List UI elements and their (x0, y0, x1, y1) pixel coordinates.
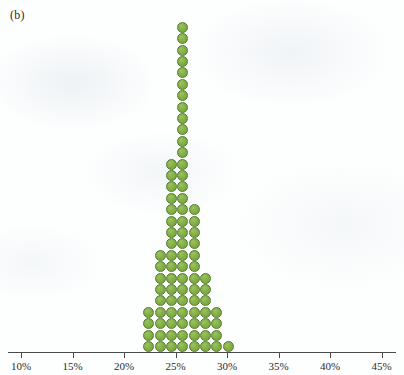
data-dot (166, 216, 177, 227)
data-dot (166, 193, 177, 204)
data-dot (155, 341, 166, 352)
data-dot (177, 284, 188, 295)
x-axis-tick-label: 10% (11, 360, 31, 372)
data-dot (166, 284, 177, 295)
data-dot (166, 238, 177, 249)
x-axis-tick-label: 25% (165, 360, 185, 372)
plot-area (0, 0, 404, 352)
data-dot (177, 341, 188, 352)
data-dot (177, 216, 188, 227)
data-dot (166, 330, 177, 341)
data-dot (177, 22, 188, 33)
x-axis-line (8, 352, 396, 353)
data-dot (166, 341, 177, 352)
x-axis-tick-label: 45% (371, 360, 391, 372)
data-dot (189, 318, 200, 329)
data-dot (166, 307, 177, 318)
data-dot (189, 261, 200, 272)
data-dot (189, 330, 200, 341)
data-dot (155, 330, 166, 341)
data-dot (155, 318, 166, 329)
data-dot (177, 45, 188, 56)
x-axis-tick (227, 352, 228, 358)
data-dot (200, 273, 211, 284)
data-dot (177, 273, 188, 284)
data-dot (177, 261, 188, 272)
data-dot (166, 261, 177, 272)
data-dot (155, 261, 166, 272)
data-dot (189, 250, 200, 261)
data-dot (155, 284, 166, 295)
data-dot (177, 330, 188, 341)
data-dot (177, 170, 188, 181)
data-dot (177, 102, 188, 113)
data-dot (143, 318, 154, 329)
data-dot (177, 113, 188, 124)
data-dot (177, 79, 188, 90)
x-axis-tick (382, 352, 383, 358)
data-dot (143, 330, 154, 341)
data-dot (211, 330, 222, 341)
data-dot (166, 170, 177, 181)
data-dot (177, 124, 188, 135)
data-dot (166, 318, 177, 329)
data-dot (166, 227, 177, 238)
data-dot (177, 181, 188, 192)
x-axis-tick-label: 20% (114, 360, 134, 372)
x-axis-tick (279, 352, 280, 358)
data-dot (200, 341, 211, 352)
data-dot (177, 90, 188, 101)
x-axis-tick-label: 15% (62, 360, 82, 372)
data-dot (189, 273, 200, 284)
data-dot (177, 136, 188, 147)
data-dot (166, 295, 177, 306)
x-axis-tick-label: 35% (268, 360, 288, 372)
data-dot (200, 330, 211, 341)
data-dot (177, 67, 188, 78)
data-dot (200, 295, 211, 306)
data-dot (166, 159, 177, 170)
data-dot (177, 318, 188, 329)
x-axis-tick-label: 30% (217, 360, 237, 372)
data-dot (177, 56, 188, 67)
data-dot (211, 307, 222, 318)
data-dot (177, 250, 188, 261)
data-dot (200, 284, 211, 295)
data-dot (177, 33, 188, 44)
data-dot (177, 193, 188, 204)
data-dot (189, 227, 200, 238)
data-dot (143, 341, 154, 352)
data-dot (166, 273, 177, 284)
x-axis-tick (176, 352, 177, 358)
data-dot (155, 295, 166, 306)
data-dot (177, 204, 188, 215)
data-dot (166, 250, 177, 261)
data-dot (177, 147, 188, 158)
data-dot (177, 227, 188, 238)
x-axis-tick (73, 352, 74, 358)
data-dot (200, 318, 211, 329)
data-dot (189, 307, 200, 318)
data-dot (223, 341, 234, 352)
data-dot (189, 341, 200, 352)
data-dot (177, 295, 188, 306)
x-axis-tick-label: 40% (320, 360, 340, 372)
data-dot (155, 307, 166, 318)
x-axis-tick (330, 352, 331, 358)
data-dot (155, 250, 166, 261)
data-dot (189, 216, 200, 227)
data-dot (211, 318, 222, 329)
data-dot (200, 307, 211, 318)
data-dot (177, 159, 188, 170)
data-dot (177, 238, 188, 249)
data-dot (143, 307, 154, 318)
data-dot (211, 341, 222, 352)
data-dot (166, 181, 177, 192)
dot-plot-figure: (b) 10%15%20%25%30%35%40%45% (0, 0, 404, 375)
data-dot (155, 273, 166, 284)
x-axis-tick (124, 352, 125, 358)
data-dot (177, 307, 188, 318)
data-dot (189, 284, 200, 295)
data-dot (166, 204, 177, 215)
data-dot (189, 295, 200, 306)
